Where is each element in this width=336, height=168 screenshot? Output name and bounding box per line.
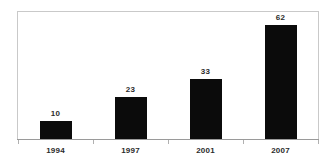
bar-2001	[190, 79, 222, 140]
bar-slot: 10	[18, 12, 93, 140]
x-axis-label-2001: 2001	[168, 146, 243, 156]
bar-value-1997: 23	[126, 85, 135, 94]
bar-1994	[40, 121, 72, 140]
bar-value-1994: 10	[51, 109, 60, 118]
bar-value-2007: 62	[276, 13, 285, 22]
x-axis-tick	[318, 140, 319, 144]
x-axis-tick	[18, 140, 19, 144]
x-axis-label-1997: 1997	[93, 146, 168, 156]
bar-value-2001: 33	[201, 67, 210, 76]
x-axis-tick	[168, 140, 169, 144]
x-axis-label-2007: 2007	[243, 146, 318, 156]
x-axis-tick	[93, 140, 94, 144]
bar-2007	[265, 25, 297, 140]
bar-slot: 33	[168, 12, 243, 140]
plot-area: 10 23 33 62	[18, 12, 318, 140]
bar-chart: 10 23 33 62 1994 1997 2001 2007	[0, 0, 336, 168]
x-axis-tick	[243, 140, 244, 144]
bar-slot: 62	[243, 12, 318, 140]
bar-1997	[115, 97, 147, 140]
x-axis-label-1994: 1994	[18, 146, 93, 156]
bar-slot: 23	[93, 12, 168, 140]
